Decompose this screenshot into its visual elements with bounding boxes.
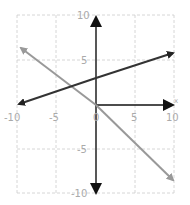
- dark-line: [19, 78, 96, 104]
- svg-text:-10: -10: [4, 112, 20, 123]
- svg-text:-10: -10: [71, 188, 87, 199]
- svg-text:5: 5: [81, 55, 87, 66]
- svg-text:10: 10: [77, 10, 90, 21]
- axes: [96, 18, 172, 192]
- svg-text:x: x: [174, 97, 178, 105]
- svg-text:-5: -5: [49, 112, 59, 123]
- svg-text:-5: -5: [77, 144, 87, 155]
- coordinate-plane: -10 -5 0 5 10 10 5 -5 -10 x: [0, 0, 190, 205]
- svg-text:5: 5: [131, 112, 137, 123]
- svg-text:10: 10: [166, 112, 179, 123]
- dark-line-2: [96, 53, 173, 78]
- svg-text:0: 0: [93, 112, 99, 123]
